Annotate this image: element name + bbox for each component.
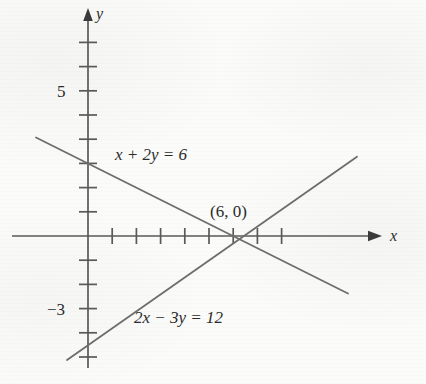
intersection-point-label: (6, 0): [210, 203, 247, 220]
x-axis-arrowhead: [368, 231, 382, 241]
line-2x-minus-3y-equals-12: [67, 157, 357, 360]
y-axis-arrowhead: [83, 8, 93, 21]
x-axis-label: x: [390, 228, 397, 244]
y-axis-label: y: [96, 6, 103, 22]
y-tick-label-5: 5: [57, 83, 66, 100]
figure-canvas: y x 5 −3 x + 2y = 6 2x − 3y = 12 (6, 0): [0, 0, 426, 384]
equation-label-line-1: x + 2y = 6: [115, 146, 187, 163]
line-x-plus-2y-equals-6: [36, 138, 348, 294]
equation-label-line-2: 2x − 3y = 12: [134, 309, 223, 326]
y-tick-label-minus-3: −3: [47, 301, 65, 318]
